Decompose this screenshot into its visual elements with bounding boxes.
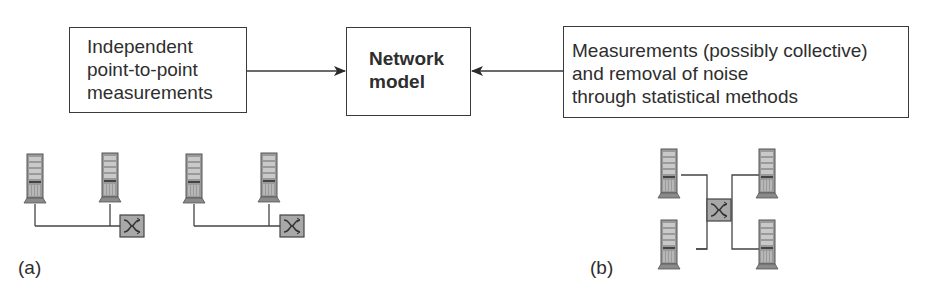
server-tower-icon	[658, 220, 680, 269]
network-switch-icon	[120, 215, 144, 237]
server-tower-icon	[258, 153, 280, 202]
text-line: Measurements (possibly collective)	[572, 39, 868, 62]
text-line: point-to-point	[87, 58, 213, 81]
text-line: model	[369, 70, 444, 93]
text-line: and removal of noise	[572, 62, 868, 85]
network-switch-icon	[707, 199, 731, 221]
panel-a-group-2	[183, 153, 304, 237]
server-tower-icon	[183, 154, 205, 203]
text-line: measurements	[87, 81, 213, 104]
text-line: through statistical methods	[572, 85, 868, 108]
server-tower-icon	[99, 153, 121, 202]
box-text: Network model	[369, 47, 444, 93]
network-model-box: Network model	[346, 27, 471, 116]
box-text: Measurements (possibly collective) and r…	[572, 39, 868, 108]
box-text: Independent point-to-point measurements	[87, 35, 213, 104]
panel-a-group-1	[24, 153, 144, 237]
text-line: Network	[369, 47, 444, 70]
statistical-measurements-box: Measurements (possibly collective) and r…	[563, 26, 909, 118]
panel-a-label: (a)	[18, 257, 41, 279]
panel-b-group	[658, 149, 778, 269]
text-line: Independent	[87, 35, 213, 58]
independent-measurements-box: Independent point-to-point measurements	[69, 27, 247, 113]
server-tower-icon	[756, 220, 778, 269]
server-tower-icon	[756, 149, 778, 198]
panel-b-label: (b)	[590, 257, 613, 279]
network-switch-icon	[280, 215, 304, 237]
server-tower-icon	[658, 149, 680, 198]
server-tower-icon	[24, 154, 46, 203]
